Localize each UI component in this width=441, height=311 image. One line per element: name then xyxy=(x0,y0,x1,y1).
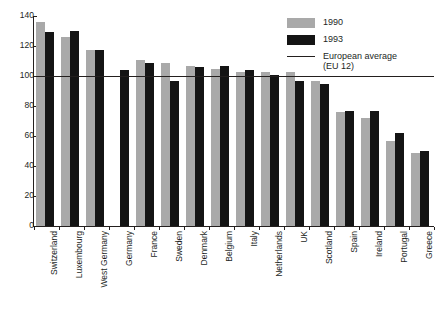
bar-1990 xyxy=(36,22,45,226)
x-axis-tick-mark xyxy=(359,227,360,230)
black-square-swatch xyxy=(287,35,315,45)
bar-1990 xyxy=(211,69,220,227)
bar-1990 xyxy=(136,60,145,226)
legend-item-european-average: European average (EU 12) xyxy=(287,50,437,74)
y-axis-tick-label: 120 xyxy=(20,40,34,51)
y-axis-tick-label: 60 xyxy=(25,130,34,141)
bar-1993 xyxy=(245,70,254,226)
x-axis-tick-mark xyxy=(209,227,210,230)
x-axis-category-label: Netherlands xyxy=(275,231,284,277)
bar-1990 xyxy=(386,141,395,227)
x-axis-tick-mark xyxy=(134,227,135,230)
x-axis-category-label: Switzerland xyxy=(50,231,59,275)
x-axis-tick-mark xyxy=(409,227,410,230)
bar-1990 xyxy=(361,118,370,226)
x-axis-category-label: Italy xyxy=(250,231,259,247)
european-average-reference-line xyxy=(34,76,434,77)
bar-1990 xyxy=(336,112,345,226)
legend-label-1993: 1993 xyxy=(323,34,343,45)
bar-1993 xyxy=(345,111,354,226)
bar-group xyxy=(211,16,230,226)
bar-1990 xyxy=(411,153,420,226)
x-axis-category-label: Denmark xyxy=(200,231,209,265)
bar-1993 xyxy=(145,63,154,227)
bar-group xyxy=(236,16,255,226)
y-axis-tick-label: 140 xyxy=(20,10,34,21)
x-axis-tick-mark xyxy=(59,227,60,230)
x-axis-tick-mark xyxy=(159,227,160,230)
bar-group xyxy=(161,16,180,226)
bar-group xyxy=(261,16,280,226)
legend-label-1990: 1990 xyxy=(323,17,343,28)
x-axis-category-label: France xyxy=(150,231,159,257)
y-axis-tick-label: 40 xyxy=(25,160,34,171)
x-axis-tick-mark xyxy=(334,227,335,230)
bar-1993 xyxy=(220,66,229,226)
legend-item-1990: 1990 xyxy=(287,16,437,31)
reference-line-swatch xyxy=(287,56,315,57)
y-axis-tick-label: 100 xyxy=(20,70,34,81)
bar-1990 xyxy=(286,72,295,226)
bar-1993 xyxy=(370,111,379,227)
bar-1990 xyxy=(236,72,245,226)
x-axis-category-label: UK xyxy=(300,231,309,243)
legend-label-eu-12: (EU 12) xyxy=(323,61,354,72)
bar-group xyxy=(186,16,205,226)
bar-1993 xyxy=(45,32,54,226)
bar-group xyxy=(61,16,80,226)
bar-1993 xyxy=(120,70,129,226)
bar-group xyxy=(111,16,130,226)
x-axis-tick-mark xyxy=(34,227,35,230)
bar-chart: 020406080100120140 SwitzerlandLuxembourg… xyxy=(0,0,441,311)
bar-1990 xyxy=(61,37,70,226)
bar-1993 xyxy=(195,67,204,226)
x-axis-category-label: Sweden xyxy=(175,231,184,262)
y-axis-tick-label: 80 xyxy=(25,100,34,111)
bar-group xyxy=(136,16,155,226)
x-axis-category-label: Ireland xyxy=(375,231,384,257)
legend-item-1993: 1993 xyxy=(287,33,437,48)
bar-1990 xyxy=(161,63,170,226)
x-axis-tick-mark xyxy=(84,227,85,230)
bar-1990 xyxy=(261,72,270,226)
bar-1993 xyxy=(395,133,404,226)
x-axis-category-label: West Germany xyxy=(100,231,109,288)
x-axis-category-label: Scotland xyxy=(325,231,334,264)
x-axis-tick-mark xyxy=(284,227,285,230)
gray-square-swatch xyxy=(287,18,315,28)
y-axis-tick-label: 20 xyxy=(25,190,34,201)
x-axis-tick-mark xyxy=(234,227,235,230)
bar-1993 xyxy=(70,31,79,226)
bar-group xyxy=(86,16,105,226)
chart-legend: 1990 1993 European average (EU 12) xyxy=(287,16,437,76)
bar-1993 xyxy=(170,81,179,226)
bar-1990 xyxy=(186,66,195,226)
bar-1993 xyxy=(295,81,304,226)
x-axis-category-label: Luxembourg xyxy=(75,231,84,278)
bar-1993 xyxy=(420,151,429,226)
x-axis-category-label: Portugal xyxy=(400,231,409,263)
bar-1993 xyxy=(270,75,279,226)
x-axis-tick-mark xyxy=(309,227,310,230)
x-axis-category-label: Germany xyxy=(125,231,134,266)
bar-group xyxy=(36,16,55,226)
x-axis-tick-mark xyxy=(384,227,385,230)
x-axis-tick-mark xyxy=(109,227,110,230)
x-axis-category-label: Spain xyxy=(350,231,359,253)
x-axis-tick-mark xyxy=(184,227,185,230)
x-axis-tick-mark xyxy=(259,227,260,230)
x-axis-tick-mark xyxy=(434,227,435,230)
bar-1990 xyxy=(311,81,320,226)
x-axis-category-label: Belgium xyxy=(225,231,234,262)
x-axis-category-label: Greece xyxy=(425,231,434,259)
bar-1993 xyxy=(320,84,329,227)
